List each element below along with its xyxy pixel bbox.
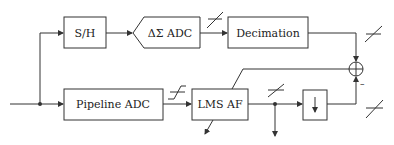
block-diagram: S/H ΔΣ ADC Decimation – Pipeline ADC LMS… xyxy=(0,0,394,145)
bus-slash-icon xyxy=(366,100,383,118)
pipeline-adc-label: Pipeline ADC xyxy=(76,98,150,111)
lms-af-block: LMS AF xyxy=(192,89,248,120)
sample-hold-label: S/H xyxy=(75,27,96,40)
summing-junction xyxy=(349,62,363,76)
input-line xyxy=(10,33,63,106)
delta-sigma-adc-label: ΔΣ ADC xyxy=(148,27,192,40)
decimation-block: Decimation xyxy=(228,17,308,48)
decimation-label: Decimation xyxy=(236,27,300,40)
minus-sign: – xyxy=(360,79,365,89)
delta-sigma-adc-block: ΔΣ ADC xyxy=(133,17,200,48)
lms-af-label: LMS AF xyxy=(197,98,243,111)
sample-hold-block: S/H xyxy=(64,17,106,48)
bus-slash-icon xyxy=(207,12,223,28)
pipeline-adc-block: Pipeline ADC xyxy=(64,89,163,120)
downsample-block xyxy=(303,90,327,120)
